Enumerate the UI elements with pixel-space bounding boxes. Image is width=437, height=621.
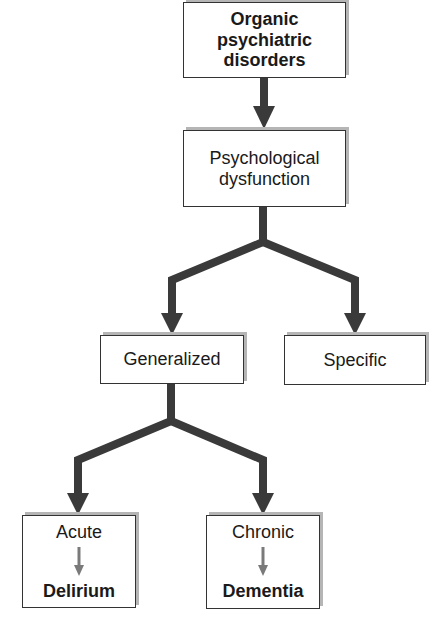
node-psychological-dysfunction: Psychological dysfunction	[183, 130, 346, 207]
node-generalized: Generalized	[100, 335, 244, 384]
node-result: Delirium	[43, 581, 115, 602]
node-text-line: Organic	[230, 9, 298, 30]
node-label: Generalized	[123, 349, 220, 370]
node-text-line: Psychological	[209, 148, 319, 169]
node-chronic-dementia: Chronic Dementia	[206, 515, 320, 609]
node-result: Dementia	[222, 581, 303, 602]
arrowhead-icon	[67, 493, 89, 515]
arrow-down-icon	[257, 547, 269, 577]
node-text-line: dysfunction	[219, 169, 310, 190]
node-text-line: disorders	[223, 50, 305, 71]
arrow-down-icon	[73, 547, 85, 577]
node-label: Chronic	[232, 522, 294, 543]
node-acute-delirium: Acute Delirium	[22, 515, 136, 608]
node-text-line: psychiatric	[217, 30, 312, 51]
node-label: Acute	[56, 522, 102, 543]
arrowhead-icon	[161, 313, 183, 335]
arrowhead-icon	[253, 106, 275, 129]
arrowhead-icon	[344, 313, 366, 335]
node-label: Specific	[323, 350, 386, 371]
arrowhead-icon	[252, 493, 274, 515]
arrow-psych-to-specific	[263, 242, 355, 316]
arrow-generalized-to-chronic	[171, 421, 263, 496]
arrow-psych-to-generalized	[172, 207, 263, 316]
node-specific: Specific	[284, 335, 426, 385]
node-organic-psychiatric-disorders: Organic psychiatric disorders	[183, 2, 346, 78]
arrow-generalized-to-acute	[78, 383, 171, 496]
